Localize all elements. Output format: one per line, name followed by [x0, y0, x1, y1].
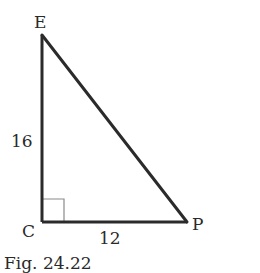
figure-caption: Fig. 24.22: [4, 255, 92, 272]
side-length-cp: 12: [99, 230, 121, 247]
side-length-ec: 16: [11, 133, 33, 150]
vertex-label-e: E: [34, 14, 46, 31]
vertex-label-c: C: [22, 223, 35, 240]
vertex-label-p: P: [192, 216, 203, 233]
side-ep-hypotenuse: [42, 35, 187, 222]
right-angle-marker: [42, 199, 64, 222]
